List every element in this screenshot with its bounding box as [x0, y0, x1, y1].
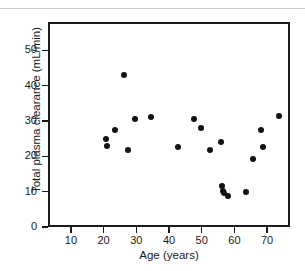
scatter-point [125, 147, 131, 153]
scatter-point [218, 139, 224, 145]
x-axis-tick-label: 40 [154, 235, 184, 246]
y-axis-tick-label: 10 [0, 186, 37, 197]
page-rule-divider [0, 8, 305, 9]
page-header-fragment [70, 0, 240, 7]
x-axis-tick-label: 50 [187, 235, 217, 246]
x-axis-tick-label: 60 [219, 235, 249, 246]
x-axis-tick-label: 10 [56, 235, 86, 246]
scatter-point [260, 144, 266, 150]
plot-data-area [50, 24, 288, 225]
y-axis-tick-label: 30 [0, 115, 37, 126]
scatter-point [148, 114, 154, 120]
y-axis-tick-label: 20 [0, 150, 37, 161]
x-axis-tick-label: 20 [89, 235, 119, 246]
scatter-point [276, 113, 282, 119]
scatter-point [104, 143, 110, 149]
x-axis-tick [201, 227, 202, 233]
scatter-point [198, 125, 204, 131]
scatter-point [191, 116, 197, 122]
scatter-point [103, 136, 109, 142]
x-axis-tick [266, 227, 267, 233]
scatter-point [132, 116, 138, 122]
x-axis-tick-label: 30 [121, 235, 151, 246]
scatter-point [175, 144, 181, 150]
scatter-point [225, 193, 231, 199]
x-axis-title: Age (years) [48, 249, 290, 261]
scatter-point [243, 189, 249, 195]
scatter-point [121, 72, 127, 78]
scatter-point [250, 156, 256, 162]
x-axis-tick [103, 227, 104, 233]
scatter-point [112, 127, 118, 133]
x-axis-tick [70, 227, 71, 233]
figure-scatter-plot: Total plasma clearance (mL/min) Age (yea… [0, 0, 305, 271]
scatter-point [207, 147, 213, 153]
x-axis-tick [234, 227, 235, 233]
scatter-point [258, 127, 264, 133]
plot-frame [48, 22, 290, 227]
x-axis-tick [168, 227, 169, 233]
y-axis-tick-label: 0 [0, 221, 37, 232]
x-axis-tick-label: 70 [252, 235, 282, 246]
y-axis-tick-label: 40 [0, 80, 37, 91]
y-axis-title: Total plasma clearance (mL/min) [30, 8, 42, 213]
x-axis-tick [136, 227, 137, 233]
y-axis-tick-label: 50 [0, 44, 37, 55]
